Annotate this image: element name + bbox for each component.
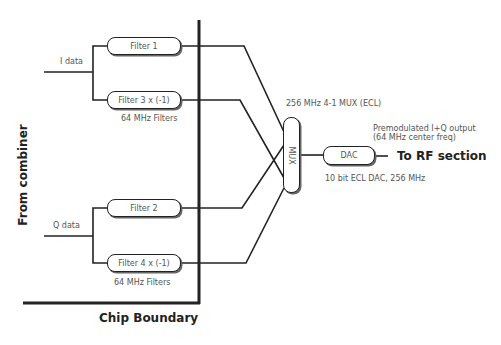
filter-2-box: Filter 2 <box>107 199 181 217</box>
q-data-label: Q data <box>53 221 80 230</box>
output-note-line2: (64 MHz center freq) <box>373 133 456 142</box>
mux-box: MUX <box>283 117 300 193</box>
dac-caption: 10 bit ECL DAC, 256 MHz <box>325 174 425 183</box>
mux-label: MUX <box>287 146 296 164</box>
filter-4-box: Filter 4 x (-1) <box>107 254 181 272</box>
filters-caption-bottom: 64 MHz Filters <box>114 278 170 287</box>
connection-lines <box>0 0 501 345</box>
output-note-line1: Premodulated I+Q output <box>373 124 476 133</box>
dac-box: DAC <box>323 146 375 165</box>
filters-caption-top: 64 MHz Filters <box>121 114 177 123</box>
filter-3-box: Filter 3 x (-1) <box>107 91 181 109</box>
i-data-label: I data <box>60 57 83 66</box>
chip-boundary-label: Chip Boundary <box>99 311 198 325</box>
mux-caption: 256 MHz 4-1 MUX (ECL) <box>286 99 381 108</box>
iq-dac-block-diagram: I data Q data Filter 1 Filter 3 x (-1) F… <box>0 0 501 345</box>
from-combiner-label: From combiner <box>16 124 30 225</box>
filter-1-box: Filter 1 <box>107 37 181 55</box>
to-rf-section-label: To RF section <box>397 149 487 163</box>
